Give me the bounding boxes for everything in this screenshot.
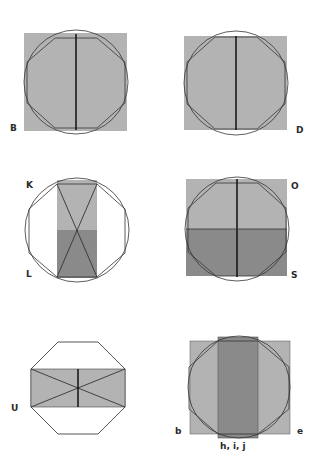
- label-k: K: [26, 180, 34, 190]
- panel-d: D: [184, 31, 303, 135]
- panel-kl: K L: [25, 178, 129, 282]
- label-o: O: [291, 181, 299, 191]
- panel-u: U: [11, 342, 125, 434]
- label-s: S: [291, 270, 297, 280]
- central-rect-fill: [218, 337, 258, 438]
- label-u: U: [11, 403, 18, 413]
- panel-bhije: b h, i, j e: [175, 336, 303, 451]
- label-l: L: [26, 269, 32, 279]
- diagram-canvas: B D K L O S U: [0, 0, 318, 451]
- label-e: e: [297, 426, 303, 436]
- panel-os: O S: [185, 177, 299, 281]
- label-b: B: [10, 123, 17, 133]
- upper-rect-fill: [57, 180, 97, 230]
- label-b-lower: b: [175, 426, 182, 436]
- lower-rect-fill: [57, 230, 97, 278]
- label-hij: h, i, j: [220, 441, 246, 451]
- label-d: D: [296, 125, 303, 135]
- panel-b: B: [10, 30, 128, 134]
